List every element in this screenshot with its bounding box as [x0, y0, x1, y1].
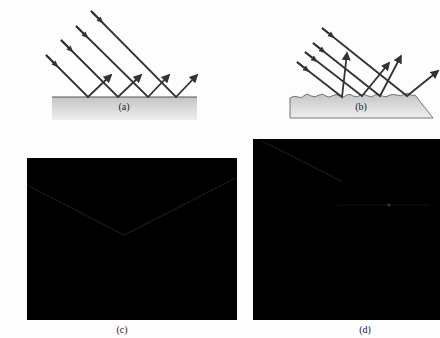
panel-label-c: (c)	[116, 324, 127, 335]
panel-label-a: (a)	[118, 101, 129, 112]
light-spot	[388, 204, 391, 207]
scattered-rays	[297, 28, 438, 97]
incident-rays	[46, 11, 197, 97]
photo-panel-c	[27, 158, 237, 320]
photo-panel-d	[253, 139, 440, 320]
reflection-diagrams	[0, 0, 440, 338]
panel-label-d: (d)	[359, 324, 371, 335]
panel-label-b: (b)	[355, 101, 367, 112]
